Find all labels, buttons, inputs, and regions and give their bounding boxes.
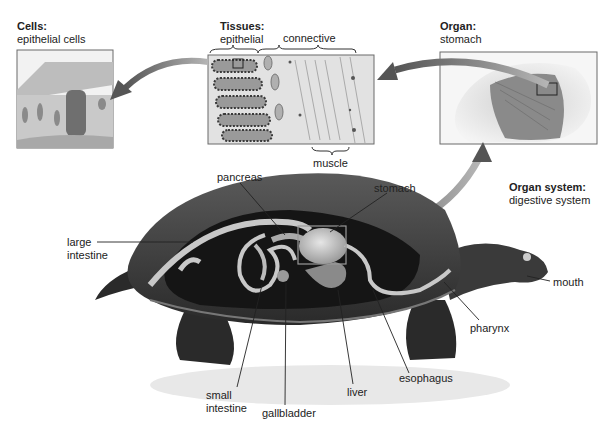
organ-system-subheading: digestive system — [509, 194, 590, 206]
small-intestine-label: small intestine — [206, 389, 247, 415]
esophagus-label: esophagus — [399, 372, 453, 385]
small-intestine-line2: intestine — [206, 402, 247, 415]
large-intestine-label: large intestine — [67, 236, 108, 262]
pancreas-label: pancreas — [217, 171, 262, 184]
turtle-illustration — [95, 173, 548, 405]
large-intestine-line1: large — [67, 236, 108, 249]
small-intestine-line1: small — [206, 389, 247, 402]
tissues-illustration — [208, 45, 374, 155]
organ-subheading: stomach — [440, 33, 482, 45]
cells-subheading: epithelial cells — [17, 33, 85, 45]
arrow-tissue-to-cell — [110, 61, 208, 100]
tissues-muscle-label: muscle — [313, 157, 348, 170]
organ-system-heading: Organ system: — [509, 181, 590, 194]
liver-label: liver — [347, 386, 367, 399]
organ-illustration — [440, 52, 597, 144]
tissues-label: Tissues: epithelial — [220, 20, 264, 46]
cells-illustration — [17, 50, 113, 148]
organ-system-label: Organ system: digestive system — [509, 181, 590, 207]
large-intestine-line2: intestine — [67, 249, 108, 262]
tissues-epithelial: epithelial — [220, 33, 263, 45]
tissues-connective-label: connective — [283, 32, 336, 45]
mouth-label: mouth — [553, 276, 584, 289]
cells-heading: Cells: — [17, 20, 85, 33]
organ-heading: Organ: — [440, 20, 482, 33]
diagram-illustration — [0, 0, 610, 437]
organ-label: Organ: stomach — [440, 20, 482, 46]
gallbladder-label: gallbladder — [262, 407, 316, 420]
stomach-label: stomach — [374, 182, 416, 195]
pharynx-label: pharynx — [470, 322, 509, 335]
tissues-heading: Tissues: — [220, 20, 264, 33]
cells-label: Cells: epithelial cells — [17, 20, 85, 46]
